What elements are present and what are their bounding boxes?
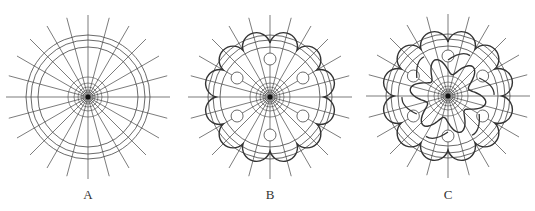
panel-a: A [0, 0, 180, 211]
scalloped-rosette-figure [180, 0, 360, 211]
panel-label-c: C [358, 187, 535, 203]
radial-grid-figure [0, 0, 180, 211]
panel-c: C [355, 0, 535, 211]
panel-label-a: A [0, 187, 178, 203]
swirl-rosette-figure [355, 0, 535, 211]
panel-label-b: B [180, 187, 360, 203]
panel-b: B [180, 0, 360, 211]
